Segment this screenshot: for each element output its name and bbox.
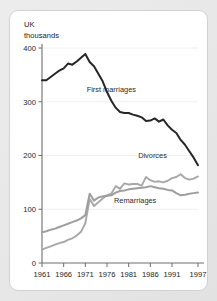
chart-card: 0100200300400196119661971197619811986199… [9, 10, 208, 291]
x-tick-label: 1966 [55, 270, 72, 279]
unit-label-line2: thousands [24, 31, 59, 40]
x-tick-label: 1976 [99, 270, 116, 279]
chart-svg: 0100200300400196119661971197619811986199… [10, 11, 208, 291]
x-tick-label: 1991 [164, 270, 181, 279]
x-tick-label: 1981 [120, 270, 137, 279]
series-label-remarriages: Remarriages [114, 196, 157, 205]
x-tick-label: 1997 [190, 270, 207, 279]
unit-label: UKthousands [24, 20, 59, 40]
x-tick-label: 1971 [77, 270, 94, 279]
y-tick-label: 100 [23, 205, 36, 214]
series-label-first-marriages: First marriages [87, 85, 137, 94]
x-tick-label: 1961 [34, 270, 51, 279]
series-label-divorces: Divorces [138, 151, 167, 160]
series-line-first-marriages [42, 54, 198, 165]
y-tick-label: 0 [32, 259, 36, 268]
series-group [42, 54, 198, 250]
series-line-divorces [42, 174, 198, 249]
x-tick-label: 1986 [142, 270, 159, 279]
unit-label-line1: UK [24, 20, 35, 29]
y-tick-label: 300 [23, 98, 36, 107]
line-chart: 0100200300400196119661971197619811986199… [10, 11, 207, 290]
gridlines [42, 48, 198, 209]
y-axis: 0100200300400 [23, 44, 42, 268]
y-tick-label: 400 [23, 44, 36, 53]
y-tick-label: 200 [23, 151, 36, 160]
x-axis: 19611966197119761981198619911997 [34, 263, 207, 279]
